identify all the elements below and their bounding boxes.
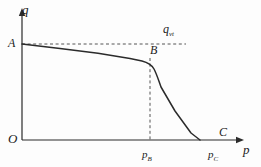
point-label-a: A (8, 37, 15, 49)
pc-subscript: C (214, 155, 219, 163)
flow-pressure-characteristic-figure: q p O A B C qvt pB pC (0, 0, 261, 167)
tick-label-pc: pC (208, 149, 218, 160)
point-label-c: C (219, 126, 227, 138)
point-label-b: B (150, 44, 157, 56)
pc-base: p (208, 148, 214, 160)
chart-canvas (0, 0, 261, 167)
qvt-subscript: vt (169, 30, 174, 38)
flow-curve (22, 44, 200, 140)
x-axis-label: p (243, 143, 250, 156)
qvt-annotation: qvt (163, 23, 174, 35)
pb-base: p (142, 148, 148, 160)
pb-subscript: B (148, 155, 152, 163)
origin-label: O (8, 132, 17, 145)
tick-label-pb: pB (142, 149, 152, 160)
y-axis-label: q (22, 3, 29, 16)
